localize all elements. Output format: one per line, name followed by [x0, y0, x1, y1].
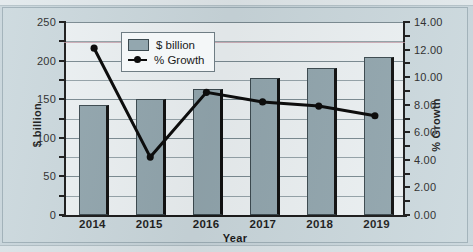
chart-figure: $ billion % Growth Year 0501001502002500…: [2, 7, 468, 243]
y-axis-right-label: 6.00: [414, 126, 436, 138]
y-axis-right-tick: [403, 173, 410, 175]
y-axis-left-tick: [59, 118, 66, 120]
plot-area: 0501001502002500.002.004.006.008.0010.00…: [64, 22, 405, 215]
scan-top-edge: [0, 0, 473, 6]
growth-data-point: [147, 154, 154, 161]
y-axis-right-tick: [403, 62, 410, 64]
x-axis-label: 2018: [306, 218, 333, 230]
x-axis-line: [62, 215, 407, 217]
y-axis-right-tick: [403, 186, 410, 188]
y-axis-right-tick: [403, 76, 410, 78]
y-axis-right-tick: [403, 35, 410, 37]
y-axis-left-tick: [59, 195, 66, 197]
growth-line-series: [66, 22, 403, 215]
y-axis-left-tick: [59, 214, 66, 216]
y-axis-right-tick: [403, 118, 410, 120]
y-axis-right-tick: [403, 131, 410, 133]
x-axis-label: 2017: [250, 218, 277, 230]
y-axis-right-tick: [403, 145, 410, 147]
y-axis-right-tick: [403, 214, 410, 216]
y-axis-right-label: 10.00: [414, 71, 443, 83]
y-axis-left-tick: [59, 156, 66, 158]
y-axis-right-label: 14.00: [414, 16, 443, 28]
y-axis-left-tick: [59, 175, 66, 177]
y-axis-left-label: 0: [50, 209, 56, 221]
line-marker-swatch-icon: [128, 55, 147, 65]
y-axis-left-label: 150: [37, 93, 56, 105]
y-axis-left-tick: [59, 21, 66, 23]
growth-data-point: [315, 102, 322, 109]
y-axis-left-label: 50: [43, 170, 56, 182]
y-axis-right-tick: [403, 21, 410, 23]
legend-item-line: % Growth: [128, 52, 205, 67]
growth-data-point: [203, 89, 210, 96]
legend-label-line: % Growth: [154, 54, 205, 66]
y-axis-right-tick: [403, 200, 410, 202]
legend-label-bar: $ billion: [156, 39, 195, 51]
x-axis-label: 2016: [193, 218, 220, 230]
y-axis-left-tick: [59, 79, 66, 81]
y-axis-left-label: 250: [37, 16, 56, 28]
y-axis-left-tick: [59, 60, 66, 62]
y-axis-right-tick: [403, 90, 410, 92]
y-axis-right-label: 2.00: [414, 181, 436, 193]
y-axis-left-tick: [59, 137, 66, 139]
scan-bottom-edge: [0, 245, 473, 252]
y-axis-right-tick: [403, 49, 410, 51]
screenshot-root: $ billion % Growth Year 0501001502002500…: [0, 0, 473, 252]
x-axis-label: 2019: [363, 218, 390, 230]
y-axis-right-tick: [403, 159, 410, 161]
x-axis-title: Year: [3, 232, 467, 244]
y-axis-right-tick: [403, 104, 410, 106]
y-axis-right-label: 8.00: [414, 99, 436, 111]
y-axis-right-label: 0.00: [414, 209, 436, 221]
y-axis-right-label: 4.00: [414, 154, 436, 166]
growth-data-point: [259, 98, 266, 105]
growth-data-point: [371, 112, 378, 119]
legend-item-bar: $ billion: [128, 37, 205, 52]
x-axis-label: 2015: [136, 218, 163, 230]
y-axis-left-label: 200: [37, 55, 56, 67]
bar-swatch-icon: [128, 39, 149, 51]
y-axis-right-label: 12.00: [414, 44, 443, 56]
y-axis-left-tick: [59, 98, 66, 100]
y-axis-left-label: 100: [37, 132, 56, 144]
growth-data-point: [91, 45, 98, 52]
x-axis-label: 2014: [79, 218, 106, 230]
chart-legend: $ billion % Growth: [121, 32, 215, 72]
